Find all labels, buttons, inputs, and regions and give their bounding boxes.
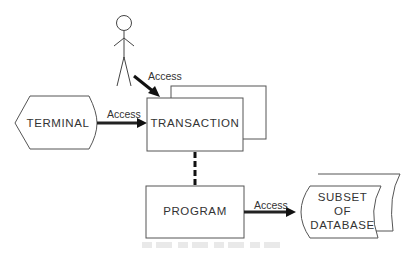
access-label-user: Access	[148, 70, 182, 82]
stick-figure-icon	[114, 16, 134, 87]
access-label-program: Access	[254, 199, 288, 211]
access-label-terminal: Access	[107, 108, 141, 120]
terminal-label: TERMINAL	[22, 117, 94, 129]
transaction-label: TRANSACTION	[147, 117, 243, 129]
figure-caption-faded	[142, 242, 282, 248]
program-label: PROGRAM	[146, 205, 244, 217]
database-label-line2: OF	[305, 205, 380, 217]
database-label-line3: DATABASE	[305, 219, 380, 231]
database-label-line1: SUBSET	[305, 191, 380, 203]
